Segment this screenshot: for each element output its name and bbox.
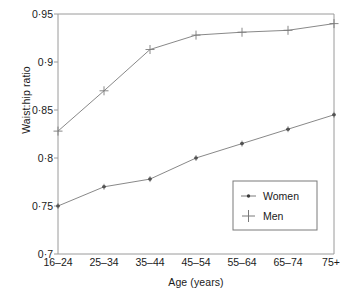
legend-item-men-label: Men: [263, 210, 283, 222]
chart-figure: Waist:hip ratio 0·95 0·9 0·85 0·8 0·75 0…: [0, 0, 348, 297]
chart-legend: [233, 181, 317, 230]
legend-item-women-label: Women: [263, 190, 299, 202]
series-men: [54, 19, 339, 136]
legend-box: [233, 181, 317, 230]
series-line: [58, 24, 334, 132]
plot-area: [0, 0, 348, 297]
y-axis-ticks: [54, 14, 58, 254]
